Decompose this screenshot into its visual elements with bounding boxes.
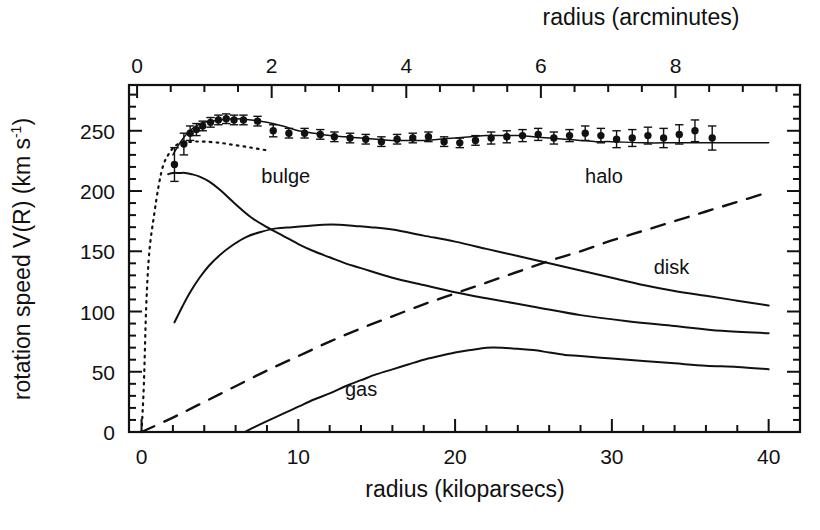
series-curve-halo: [142, 192, 769, 432]
bottom-tick-label: 10: [287, 445, 310, 468]
data-point-with-errorbar: [409, 133, 417, 143]
left-axis-title-exponent: -1: [8, 125, 24, 138]
bottom-axis-title: radius (kiloparsecs): [365, 476, 564, 502]
data-point-with-errorbar: [597, 128, 605, 142]
left-axis-tick-labels: 050100150200250: [80, 120, 115, 444]
data-point-with-errorbar: [487, 132, 495, 144]
rotation-curve-figure: 010203040 02468 050100150200250 bulgehal…: [0, 0, 820, 530]
data-point-with-errorbar: [581, 126, 589, 140]
data-point-marker: [644, 132, 651, 139]
data-point-marker: [456, 139, 463, 146]
data-point-with-errorbar: [285, 128, 293, 138]
data-point-marker: [472, 137, 479, 144]
data-point-with-errorbar: [628, 130, 636, 147]
data-point-marker: [230, 116, 237, 123]
left-axis-ticks: [129, 95, 142, 432]
data-point-with-errorbar: [503, 131, 511, 143]
left-axis-title-main: rotation speed V(R) (km s: [9, 138, 35, 400]
data-point-marker: [582, 129, 589, 136]
curve-label-bulge: bulge: [261, 165, 310, 187]
curve-label-gas: gas: [345, 378, 377, 400]
top-tick-label: 6: [535, 54, 547, 77]
left-tick-label: 0: [103, 421, 115, 444]
series-curve-bulge: [168, 173, 768, 333]
data-point-marker: [691, 127, 698, 134]
data-point-marker: [171, 161, 178, 168]
top-tick-label: 0: [131, 54, 143, 77]
data-point-with-errorbar: [456, 138, 464, 148]
data-point-marker: [301, 129, 308, 136]
data-point-marker: [207, 119, 214, 126]
bottom-axis-tick-labels: 010203040: [136, 445, 781, 468]
data-point-with-errorbar: [269, 125, 277, 137]
curve-label-disk: disk: [654, 256, 691, 278]
data-point-with-errorbar: [644, 127, 652, 144]
top-axis-tick-labels: 02468: [131, 54, 681, 77]
data-point-marker: [709, 134, 716, 141]
left-tick-label: 250: [80, 120, 115, 143]
series-curve-model-dotted: [142, 141, 266, 432]
data-point-marker: [566, 132, 573, 139]
data-point-marker: [393, 136, 400, 143]
data-point-with-errorbar: [659, 128, 667, 147]
left-axis-title-close: ): [9, 118, 35, 126]
left-tick-label: 150: [80, 240, 115, 263]
series-curve-gas: [245, 347, 769, 432]
data-point-with-errorbar: [708, 126, 716, 150]
data-point-with-errorbar: [377, 137, 385, 147]
data-point-with-errorbar: [675, 125, 683, 144]
curve-label-halo: halo: [585, 165, 623, 187]
left-tick-label: 200: [80, 180, 115, 203]
bottom-tick-label: 20: [443, 445, 466, 468]
data-point-with-errorbar: [612, 131, 620, 148]
bottom-tick-label: 40: [757, 445, 780, 468]
left-tick-label: 100: [80, 301, 115, 324]
left-tick-label: 50: [92, 361, 115, 384]
bottom-axis-ticks: [142, 419, 769, 432]
data-point-marker: [285, 129, 292, 136]
top-axis-title: radius (arcminutes): [543, 4, 740, 30]
top-tick-label: 8: [670, 54, 682, 77]
left-axis-title: rotation speed V(R) (km s-1): [8, 118, 35, 400]
data-point-marker: [270, 127, 277, 134]
data-point-with-errorbar: [393, 134, 401, 144]
curve-annotations: bulgehalodiskgas: [261, 165, 690, 400]
data-point-with-errorbar: [534, 128, 542, 140]
data-point-marker: [503, 133, 510, 140]
data-point-marker: [597, 132, 604, 139]
top-tick-label: 4: [400, 54, 412, 77]
data-point-with-errorbar: [230, 115, 238, 125]
bottom-tick-label: 0: [136, 445, 148, 468]
data-point-with-errorbar: [300, 128, 308, 138]
top-tick-label: 2: [266, 54, 278, 77]
top-axis-ticks: [137, 85, 776, 98]
left-axis-title-group: rotation speed V(R) (km s-1): [8, 118, 35, 400]
data-point-marker: [660, 134, 667, 141]
data-point-marker: [629, 134, 636, 141]
right-axis-ticks: [787, 95, 800, 432]
bottom-tick-label: 30: [600, 445, 623, 468]
rotation-curve-svg: 010203040 02468 050100150200250 bulgehal…: [0, 0, 820, 530]
data-point-with-errorbar: [691, 120, 699, 142]
data-point-marker: [676, 131, 683, 138]
